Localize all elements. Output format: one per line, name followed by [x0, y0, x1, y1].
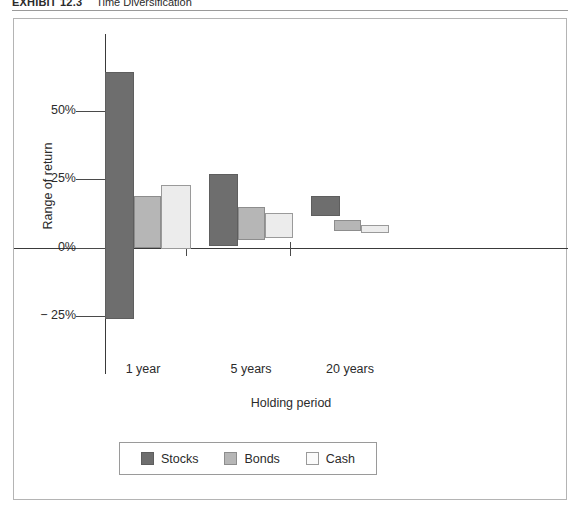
y-tick-label-neg25-wrap: − 25% [14, 308, 76, 322]
x-category-label-5-years: 5 years [206, 362, 296, 376]
bar-stocks-20-years [311, 196, 340, 216]
y-tick-mark-neg25 [76, 316, 105, 317]
bar-bonds-1-year [134, 196, 161, 248]
exhibit-caption: EXHIBIT 12.3 Time Diversification [12, 0, 568, 10]
x-axis-separator-tick-2 [290, 242, 291, 256]
legend-item-stocks: Stocks [141, 452, 199, 466]
bar-cash-20-years [361, 225, 389, 233]
legend-swatch-bonds-icon [224, 452, 237, 465]
y-axis-title: Range of return [41, 116, 55, 256]
y-tick-label-50: 50% [14, 103, 76, 117]
caption-rule [12, 10, 568, 11]
legend-item-cash: Cash [306, 452, 355, 466]
y-tick-mark-0 [76, 248, 105, 249]
bar-bonds-5-years [238, 207, 265, 240]
legend-label-bonds: Bonds [244, 452, 279, 466]
legend-swatch-cash-icon [306, 452, 319, 465]
y-tick-label-50-wrap: 50% [14, 103, 76, 117]
bar-bonds-20-years [334, 220, 361, 231]
exhibit-number: EXHIBIT 12.3 [12, 0, 82, 8]
x-category-label-20-years: 20 years [305, 362, 395, 376]
chart-legend: Stocks Bonds Cash [119, 442, 377, 475]
y-tick-label-0: 0% [14, 240, 76, 254]
x-category-label-1-year: 1 year [98, 362, 188, 376]
x-axis-title: Holding period [14, 396, 568, 410]
chart-frame: Range of return 50% 25% 0% − 25% [13, 18, 567, 500]
y-tick-label-neg25: − 25% [14, 308, 76, 322]
chart-page: EXHIBIT 12.3 Time Diversification Range … [0, 0, 580, 512]
plot-area: Range of return 50% 25% 0% − 25% [14, 19, 568, 501]
bar-stocks-5-years [209, 174, 238, 246]
bar-cash-5-years [265, 213, 293, 238]
y-tick-mark-50 [76, 111, 105, 112]
y-tick-mark-25 [76, 179, 105, 180]
legend-label-cash: Cash [326, 452, 355, 466]
y-tick-label-0-wrap: 0% [14, 240, 76, 254]
y-tick-label-25: 25% [14, 171, 76, 185]
legend-item-bonds: Bonds [224, 452, 279, 466]
exhibit-title: Time Diversification [96, 0, 192, 8]
bar-cash-1-year [161, 185, 191, 249]
bar-stocks-1-year [105, 72, 134, 319]
y-tick-label-25-wrap: 25% [14, 171, 76, 185]
legend-swatch-stocks-icon [141, 452, 154, 465]
legend-label-stocks: Stocks [161, 452, 199, 466]
